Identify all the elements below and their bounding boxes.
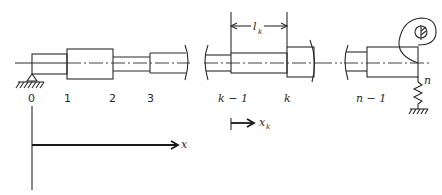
- segment-length-dimension: l k: [231, 12, 287, 53]
- station-label-0: 0: [28, 92, 35, 105]
- segment-length-subscript: k: [258, 28, 262, 36]
- global-axis-label: x: [181, 138, 188, 151]
- station-label-1: 1: [64, 92, 71, 105]
- shaft-segment-0-1: [32, 54, 67, 74]
- pin-support: [16, 74, 44, 88]
- break-mark: [205, 45, 208, 80]
- station-label-3: 3: [147, 92, 154, 105]
- station-label-k-minus-1: k − 1: [218, 92, 248, 105]
- shaft-segment-2-3: [113, 57, 150, 71]
- shaft-segment-1-2: [67, 49, 113, 79]
- break-mark: [185, 45, 188, 80]
- ground-hatch-icon: [16, 82, 44, 88]
- global-x-axis: x: [32, 106, 188, 190]
- segment-length-label: l: [253, 20, 257, 33]
- local-coord-label: x: [259, 116, 266, 129]
- station-label-k: k: [284, 92, 291, 105]
- shaft-diagram: l k 0 1 2 3 k − 1 k n − 1 n: [0, 0, 442, 195]
- local-coord-subscript: k: [266, 123, 270, 131]
- station-label-2: 2: [109, 92, 116, 105]
- ground-hatch-icon: [409, 109, 428, 114]
- shaft-segment-3: [150, 45, 188, 80]
- station-label-n: n: [424, 74, 431, 87]
- shaft-segment-end: [345, 45, 418, 80]
- shaft-segment-middle: [205, 40, 315, 82]
- local-coordinate-arrow: x k: [231, 116, 270, 131]
- break-mark: [345, 45, 348, 80]
- station-label-n-minus-1: n − 1: [356, 92, 386, 105]
